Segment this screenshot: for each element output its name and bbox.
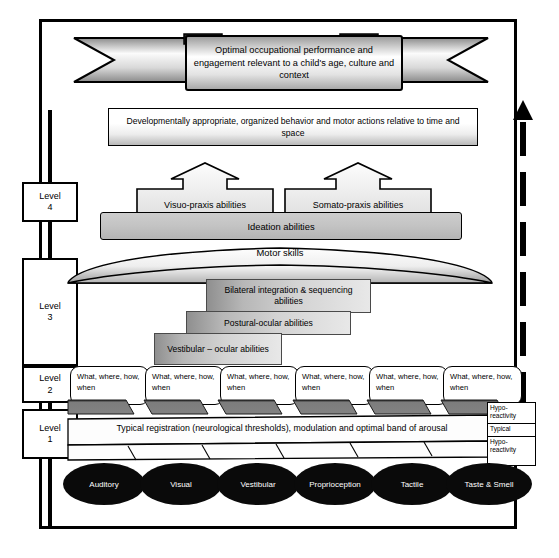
sensory-question-label: What, where, how, when	[227, 372, 289, 392]
postural-ocular-label: Postural-ocular abilities	[224, 318, 313, 329]
bilateral-integration-label: Bilateral integration & sequencing abili…	[211, 285, 366, 307]
sense-oval-visual[interactable]: Visual	[140, 463, 222, 505]
level-3-word: Level	[39, 301, 61, 311]
level-1-word: Level	[39, 423, 61, 433]
sense-label-auditory: Auditory	[89, 480, 118, 489]
sense-label-tactile: Tactile	[401, 480, 424, 489]
sense-oval-vestibular[interactable]: Vestibular	[217, 463, 299, 505]
vestibular-ocular-label: Vestibular – ocular abilities	[167, 344, 269, 355]
level-4-word: Level	[39, 191, 61, 201]
level-4-number: 4	[47, 202, 52, 212]
optimal-performance-label: Optimal occupational performance and eng…	[193, 44, 395, 82]
visuo-praxis-label: Visuo-praxis abilities	[135, 200, 275, 210]
motor-skills-label: Motor skills	[66, 247, 494, 258]
reactivity-legend[interactable]: Hypo-reactivity Typical Hypo-reactivity	[487, 402, 536, 466]
legend-typical: Typical	[488, 424, 535, 437]
bilateral-integration-box[interactable]: Bilateral integration & sequencing abili…	[206, 279, 371, 313]
ideation-abilities-bar[interactable]: Ideation abilities	[100, 212, 462, 240]
sensory-question-label: What, where, how, when	[77, 372, 139, 392]
sensory-question-label: What, where, how, when	[450, 372, 512, 392]
sensory-question-label: What, where, how, when	[152, 372, 214, 392]
level-2-number: 2	[47, 385, 52, 395]
level-1-number: 1	[47, 434, 52, 444]
sense-oval-auditory[interactable]: Auditory	[63, 463, 145, 505]
somato-praxis-label: Somato-praxis abilities	[283, 200, 433, 210]
vestibular-ocular-box[interactable]: Vestibular – ocular abilities	[154, 333, 282, 365]
sense-label-taste-and-smell: Taste & Smell	[465, 480, 514, 489]
level-3-number: 3	[47, 312, 52, 322]
sensory-question-label: What, where, how, when	[376, 372, 438, 392]
legend-hypo-reactivity-top: Hypo-reactivity	[488, 403, 535, 424]
somato-praxis-arrow-block[interactable]: Somato-praxis abilities	[283, 162, 433, 214]
typical-registration-label: Typical registration (neurological thres…	[66, 423, 498, 433]
sense-oval-proprioception[interactable]: Proprioception	[294, 463, 376, 505]
level-4-box[interactable]: Level 4	[22, 182, 78, 222]
optimal-performance-banner: Optimal occupational performance and eng…	[185, 35, 403, 91]
sense-label-vestibular: Vestibular	[240, 480, 275, 489]
postural-ocular-box[interactable]: Postural-ocular abilities	[186, 311, 351, 335]
sense-label-proprioception: Proprioception	[309, 480, 361, 489]
developmentally-appropriate-bar: Developmentally appropriate, organized b…	[108, 108, 478, 146]
sense-oval-taste-and-smell[interactable]: Taste & Smell	[446, 463, 532, 505]
spine-segment-bottom	[48, 454, 52, 526]
spine-segment-4-3	[48, 216, 52, 260]
level-2-word: Level	[39, 373, 61, 383]
ideation-abilities-label: Ideation abilities	[247, 221, 314, 232]
sense-label-visual: Visual	[170, 480, 192, 489]
typical-registration-band[interactable]	[66, 413, 498, 461]
diagram-canvas: Optimal occupational performance and eng…	[0, 0, 559, 558]
visuo-praxis-arrow-block[interactable]: Visuo-praxis abilities	[135, 162, 275, 214]
sensory-question-label: What, where, how, when	[302, 372, 364, 392]
sense-oval-tactile[interactable]: Tactile	[371, 463, 453, 505]
developmentally-appropriate-label: Developmentally appropriate, organized b…	[117, 115, 469, 139]
legend-hypo-reactivity-bottom: Hypo-reactivity	[488, 437, 535, 463]
spine-segment-top	[48, 110, 52, 184]
